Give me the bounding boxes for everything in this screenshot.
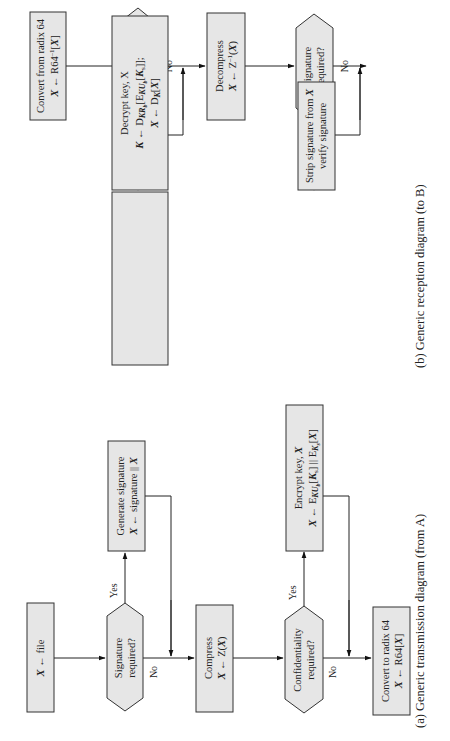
label: required? xyxy=(126,638,137,678)
label: Confidentiality xyxy=(292,627,303,691)
signature-decision-a: Signature required? xyxy=(107,603,143,711)
formula: X ← Z(X) xyxy=(216,636,228,681)
yes-label: Yes xyxy=(108,583,119,598)
file-box: X ← file xyxy=(27,603,54,712)
yes-label: Yes xyxy=(287,585,298,600)
encrypt-key-box: Encrypt key, X X ← EKUb[Ks] || EKs[X] xyxy=(286,405,323,551)
no-label: No xyxy=(148,666,159,678)
label: required? xyxy=(305,640,316,680)
confidentiality-decision-a: Confidentiality required? xyxy=(285,606,323,713)
label: Compress xyxy=(203,637,214,679)
caption-a: (a) Generic transmission diagram (from A… xyxy=(413,514,427,728)
no-label: No xyxy=(327,666,338,678)
return-line-encrypt xyxy=(323,496,349,656)
label: Encrypt key, X xyxy=(293,446,304,510)
transmission-diagram: X ← file Signature required? Yes No Gene… xyxy=(0,0,450,741)
compress-box: Compress X ← Z(X) xyxy=(196,605,233,712)
label: Signature xyxy=(113,638,124,679)
label: Convert to radix 64 xyxy=(380,619,391,702)
formula: X ← R64[X] xyxy=(393,634,404,689)
convert-to-radix-box: Convert to radix 64 X ← R64[X] xyxy=(373,607,410,715)
label: Generate signature xyxy=(115,456,126,535)
return-line-generate xyxy=(145,496,171,656)
formula: X ← signature || X xyxy=(128,456,139,536)
label: X ← file xyxy=(35,639,46,677)
generate-signature-box: Generate signature X ← signature || X xyxy=(108,441,145,551)
